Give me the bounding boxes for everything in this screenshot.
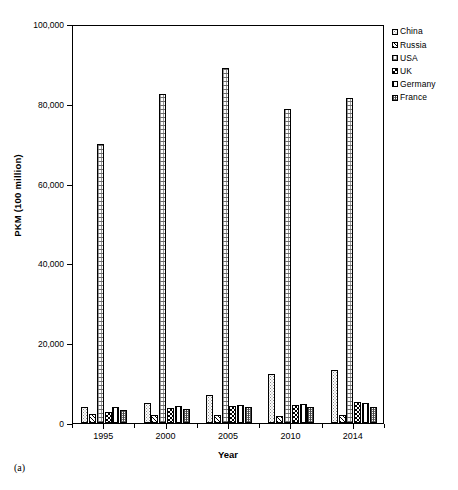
- legend-label: Germany: [400, 80, 436, 89]
- legend-item-russia[interactable]: Russia: [392, 38, 458, 51]
- legend-swatch-icon: [392, 68, 398, 74]
- legend-swatch-icon: [392, 55, 398, 61]
- legend-swatch-icon: [392, 42, 398, 48]
- figure-caption: (a): [14, 462, 25, 473]
- x-axis-tick-labels: 19952000200520102014: [0, 0, 458, 490]
- legend-item-germany[interactable]: Germany: [392, 78, 458, 91]
- legend-swatch-icon: [392, 95, 398, 101]
- x-tick-label: 2005: [198, 431, 258, 441]
- legend-item-uk[interactable]: UK: [392, 65, 458, 78]
- legend-item-usa[interactable]: USA: [392, 51, 458, 64]
- legend-label: China: [400, 27, 423, 36]
- legend-label: USA: [400, 54, 418, 63]
- legend-item-china[interactable]: China: [392, 25, 458, 38]
- legend-label: Russia: [400, 41, 427, 50]
- chart-legend: ChinaRussiaUSAUKGermanyFrance: [392, 25, 458, 104]
- legend-swatch-icon: [392, 29, 398, 35]
- legend-item-france[interactable]: France: [392, 91, 458, 104]
- x-tick-label: 1995: [73, 431, 133, 441]
- legend-label: France: [400, 93, 427, 102]
- x-tick-label: 2000: [136, 431, 196, 441]
- figure-panel-a: 020,00040,00060,00080,000100,000 PKM (10…: [0, 0, 458, 490]
- x-tick-label: 2014: [323, 431, 383, 441]
- x-tick-label: 2010: [260, 431, 320, 441]
- legend-swatch-icon: [392, 81, 398, 87]
- legend-label: UK: [400, 67, 412, 76]
- x-axis-title: Year: [72, 449, 384, 460]
